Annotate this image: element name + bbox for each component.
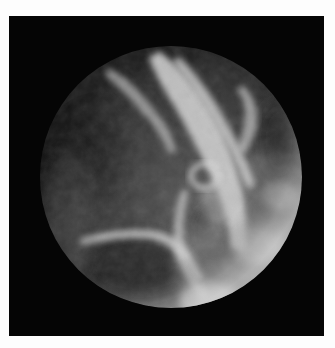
- planet-earth-image: [9, 16, 324, 336]
- photo-frame: [0, 0, 335, 348]
- space-background: [9, 16, 324, 336]
